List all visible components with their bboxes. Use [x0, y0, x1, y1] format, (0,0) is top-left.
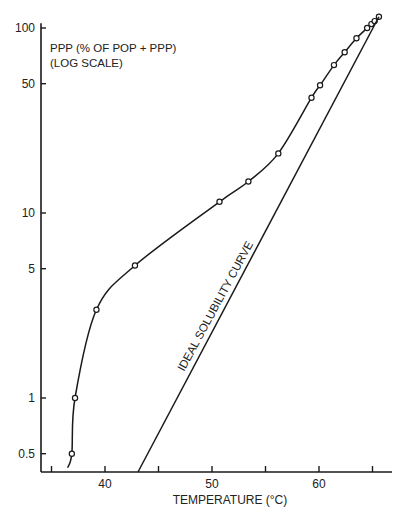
data-point-marker	[317, 83, 322, 88]
data-point-marker	[276, 151, 281, 156]
data-point-marker	[72, 395, 77, 400]
data-point-marker	[365, 25, 370, 30]
x-tick-label: 40	[98, 477, 112, 491]
y-axis-label-line2: (LOG SCALE)	[50, 57, 123, 69]
y-tick-label: 1	[28, 391, 35, 405]
x-tick-label: 60	[312, 477, 326, 491]
axes: 1005010510.5405060	[15, 21, 392, 491]
y-tick-label: 100	[15, 21, 35, 35]
x-axis-label: TEMPERATURE (°C)	[173, 493, 288, 507]
data-point-marker	[132, 263, 137, 268]
data-point-marker	[354, 36, 359, 41]
data-point-marker	[246, 179, 251, 184]
data-point-marker	[342, 50, 347, 55]
data-point-marker	[217, 199, 222, 204]
series-group	[68, 14, 382, 472]
data-point-marker	[331, 63, 336, 68]
x-tick-label: 50	[205, 477, 219, 491]
y-tick-label: 5	[28, 262, 35, 276]
data-point-marker	[309, 95, 314, 100]
data-point-marker	[69, 451, 74, 456]
measured-ppp-curve	[68, 17, 379, 468]
solubility-chart: 1005010510.5405060 PPP (% OF POP + PPP) …	[0, 0, 405, 517]
y-tick-label: 10	[22, 206, 36, 220]
data-point-marker	[94, 307, 99, 312]
y-tick-label: 50	[22, 77, 36, 91]
ideal-solubility-line	[138, 17, 379, 472]
y-tick-label: 0.5	[18, 447, 35, 461]
y-axis-label-line1: PPP (% OF POP + PPP)	[50, 42, 177, 54]
ideal-solubility-curve-label: IDEAL SOLUBILITY CURVE	[175, 239, 255, 373]
